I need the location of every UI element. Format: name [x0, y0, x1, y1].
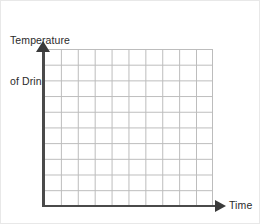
- plot-grid: [44, 49, 213, 206]
- x-axis-line: [42, 205, 219, 207]
- arrow-right-icon: [215, 200, 226, 212]
- arrow-up-icon: [36, 41, 50, 52]
- x-axis-title: Time: [229, 199, 252, 212]
- y-axis-line: [42, 51, 45, 207]
- blank-graph-figure: Temperature of Drink (°F) Time: [0, 0, 260, 224]
